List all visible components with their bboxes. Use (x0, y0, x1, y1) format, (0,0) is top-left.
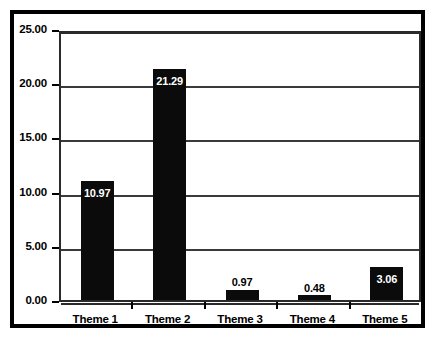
y-axis-tick-mark (52, 84, 59, 86)
y-axis-tick-label: 25.00 (14, 23, 47, 35)
x-axis-tick-mark (131, 302, 133, 309)
bar-value-label: 0.97 (212, 276, 272, 288)
y-axis-tick-mark (52, 30, 59, 32)
bar: 10.97 (81, 181, 114, 300)
bar (298, 295, 331, 300)
x-axis-tick-mark (276, 302, 278, 309)
y-axis-tick-label: 10.00 (14, 186, 47, 198)
y-axis-tick-label: 5.00 (14, 240, 47, 252)
x-axis-tick-mark (349, 302, 351, 309)
x-axis-category-label: Theme 1 (59, 313, 131, 325)
bar (226, 290, 259, 301)
x-axis-tick-mark (204, 302, 206, 309)
y-axis-tick-label: 20.00 (14, 77, 47, 89)
bar-value-label: 10.97 (81, 187, 114, 199)
bar-value-label: 3.06 (370, 273, 403, 285)
x-axis-category-label: Theme 5 (349, 313, 421, 325)
x-axis-category-label: Theme 4 (276, 313, 348, 325)
x-axis-category-label: Theme 2 (131, 313, 203, 325)
chart-outer-frame: 10.9721.290.970.483.06 0.005.0010.0015.0… (10, 10, 425, 328)
bar-value-label: 0.48 (284, 282, 344, 294)
gridline-y (61, 32, 419, 34)
y-axis-tick-mark (52, 193, 59, 195)
bar: 21.29 (153, 69, 186, 300)
y-axis-tick-mark (52, 247, 59, 249)
bar-chart-figure: 10.9721.290.970.483.06 0.005.0010.0015.0… (0, 0, 436, 339)
y-axis-tick-mark (52, 301, 59, 303)
bar: 3.06 (370, 267, 403, 300)
gridline-y (61, 140, 419, 142)
gridline-y (61, 195, 419, 197)
y-axis-tick-mark (52, 138, 59, 140)
gridline-y (61, 303, 419, 305)
gridline-y (61, 249, 419, 251)
x-axis-category-label: Theme 3 (204, 313, 276, 325)
y-axis-tick-label: 15.00 (14, 131, 47, 143)
bar-value-label: 21.29 (153, 75, 186, 87)
plot-area: 10.9721.290.970.483.06 (59, 31, 421, 302)
y-axis-tick-label: 0.00 (14, 294, 47, 306)
gridline-y (61, 86, 419, 88)
